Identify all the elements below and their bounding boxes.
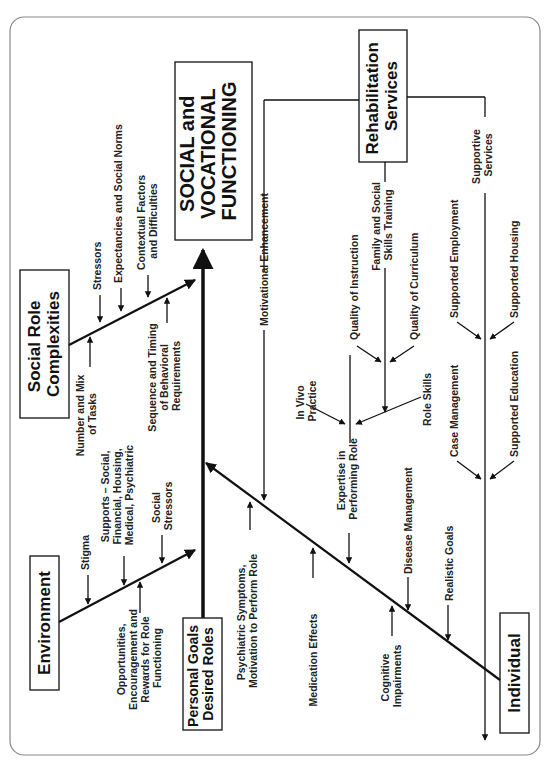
bone-role-skills	[356, 397, 421, 424]
svg-text:Supported Employment: Supported Employment	[448, 199, 460, 318]
svg-text:Stigma: Stigma	[79, 535, 91, 570]
svg-text:Supported Housing: Supported Housing	[508, 221, 520, 318]
factor-family-social-1: Family and Social	[370, 182, 382, 271]
factor-stigma: Stigma	[79, 535, 91, 570]
svg-text:Realistic Goals: Realistic Goals	[443, 526, 455, 601]
factor-supported-employment: Supported Employment	[448, 199, 460, 318]
bone-social-role	[69, 280, 195, 345]
svg-text:SOCIAL and VOCATIONAL: SOCIAL and VOCATIONAL FUNCTIONING	[176, 82, 240, 221]
outcome-line-2: VOCATIONAL	[197, 88, 219, 219]
svg-text:Expectancies and Social Norms: Expectancies and Social Norms	[112, 124, 124, 283]
outcome-line-1: SOCIAL and	[176, 96, 198, 212]
factor-cognitive-2: Impairments	[391, 645, 403, 708]
factor-opportunities-2: Encouragement and	[127, 609, 139, 710]
arrow-case-management	[457, 461, 481, 479]
factor-expectancies: Expectancies and Social Norms	[112, 124, 124, 283]
svg-text:Supportive Services: Supportive Services	[470, 126, 494, 184]
arrow-supported-employment	[457, 322, 481, 339]
svg-text:Disease Management: Disease Management	[402, 467, 414, 574]
social-role-line-2: Complexities	[44, 291, 63, 397]
personal-goals-line-2: Desired Roles	[200, 627, 216, 721]
svg-text:Social Role Complexities: Social Role Complexities	[25, 291, 63, 397]
svg-text:Expertise in Performing: Expertise in Performing Role	[335, 438, 359, 520]
svg-text:Case Management: Case Management	[448, 364, 460, 457]
svg-text:Individual: Individual	[505, 633, 524, 712]
factor-number-mix-2: of Tasks	[86, 393, 98, 435]
factor-sequence-3: Requirements	[170, 341, 182, 411]
fishbone-diagram: SOCIAL and VOCATIONAL FUNCTIONING Person…	[0, 0, 549, 774]
factor-case-management: Case Management	[448, 364, 460, 457]
personal-goals-box: Personal Goals Desired Roles	[183, 618, 222, 730]
factor-stressors: Stressors	[91, 241, 103, 290]
svg-text:Quality of Instruction: Quality of Instruction	[348, 234, 360, 340]
svg-text:Cognitive Impairments: Cognitive Impairments	[379, 645, 403, 708]
arrow-supported-education	[490, 461, 514, 479]
svg-text:Family and Social Skills: Family and Social Skills Training	[370, 179, 394, 271]
factor-realistic: Realistic Goals	[443, 526, 455, 601]
factor-quality-instruction: Quality of Instruction	[348, 234, 360, 340]
outcome-box: SOCIAL and VOCATIONAL FUNCTIONING	[175, 62, 252, 240]
factor-in-vivo-1: In Vivo	[294, 385, 306, 419]
factor-expertise-1: Expertise in	[335, 451, 347, 511]
svg-text:Medication Effects: Medication Effects	[307, 613, 319, 706]
svg-text:In Vivo Practice: In Vivo Practice	[294, 380, 318, 421]
svg-text:Social Stressors: Social Stressors	[150, 482, 174, 531]
outcome-line-3: FUNCTIONING	[218, 82, 240, 221]
svg-text:Supported Education: Supported Education	[508, 351, 520, 457]
factor-number-mix-1: Number and Mix	[74, 374, 86, 456]
factor-social-stressors-1: Social	[150, 492, 162, 523]
factor-sequence-1: Sequence and Timing	[146, 323, 158, 431]
factor-quality-curriculum: Quality of Curriculum	[408, 233, 420, 340]
factor-sequence-2: of Behavioral	[158, 344, 170, 411]
factor-opportunities-4: Functioning	[151, 628, 163, 688]
factor-supportive-1: Supportive	[470, 129, 482, 184]
arrow-quality-instruction	[357, 346, 381, 362]
svg-text:Stressors: Stressors	[91, 241, 103, 290]
rehab-line-2: Services	[382, 61, 401, 131]
svg-text:Number and Mix of Tasks: Number and Mix of Tasks	[74, 372, 98, 457]
svg-text:Contextual Factors and D: Contextual Factors and Difficulties	[135, 172, 159, 270]
svg-text:Role Skills: Role Skills	[421, 373, 433, 426]
factor-contextual-1: Contextual Factors	[135, 175, 147, 270]
factor-supported-education: Supported Education	[508, 351, 520, 457]
factor-family-social-2: Skills Training	[382, 189, 394, 260]
individual-label: Individual	[505, 633, 524, 712]
rehab-line-1: Rehabilitation	[363, 42, 382, 154]
category-social-role-complexities: Social Role Complexities Stressors Expec…	[20, 124, 195, 456]
factor-social-stressors-2: Stressors	[162, 482, 174, 531]
factor-supports-1: Supports – Social,	[99, 451, 111, 543]
factor-psychiatric-1: Psychiatric Symptoms,	[235, 565, 247, 681]
factor-opportunities-3: Rewards for Role	[139, 616, 151, 703]
svg-text:Psychiatric Symptoms, Mo: Psychiatric Symptoms, Motivation to Perf…	[235, 554, 259, 688]
svg-text:Quality of Curriculum: Quality of Curriculum	[408, 233, 420, 340]
factor-expertise-2: Performing Role	[347, 438, 359, 520]
svg-text:Sequence and Timing of B: Sequence and Timing of Behavioral Requir…	[146, 320, 182, 431]
factor-supports-3: Medical, Psychiatric	[123, 445, 135, 546]
environment-label: Environment	[35, 571, 54, 675]
factor-contextual-2: and Difficulties	[147, 183, 159, 258]
svg-text:Opportunities, Encourage: Opportunities, Encouragement and Rewards…	[115, 606, 163, 710]
category-environment: Environment Stigma Supports – Social, Fi…	[30, 445, 195, 710]
factor-supported-housing: Supported Housing	[508, 221, 520, 318]
personal-goals-line-1: Personal Goals	[185, 625, 201, 727]
diagram-frame	[10, 17, 540, 755]
factor-role-skills: Role Skills	[421, 373, 433, 426]
factor-disease: Disease Management	[402, 467, 414, 574]
arrow-supported-housing	[490, 322, 514, 339]
social-role-line-1: Social Role	[25, 301, 44, 393]
category-individual: Individual Psychiatric Symptoms, Motivat…	[206, 192, 529, 733]
svg-text:Supports – Social, Finan: Supports – Social, Financial, Housing, M…	[99, 445, 135, 546]
arrow-quality-curriculum	[390, 346, 414, 362]
svg-text:Environment: Environment	[35, 571, 54, 675]
factor-psychiatric-2: Motivation to Perform Role	[247, 554, 259, 688]
factor-medication: Medication Effects	[307, 613, 319, 706]
factor-supportive-2: Services	[482, 133, 494, 176]
factor-supports-2: Financial, Housing,	[111, 448, 123, 544]
svg-text:Personal Goals Desired R: Personal Goals Desired Roles	[185, 621, 216, 727]
factor-in-vivo-2: Practice	[306, 380, 318, 421]
factor-opportunities-1: Opportunities,	[115, 624, 127, 696]
factor-cognitive-1: Cognitive	[379, 653, 391, 701]
